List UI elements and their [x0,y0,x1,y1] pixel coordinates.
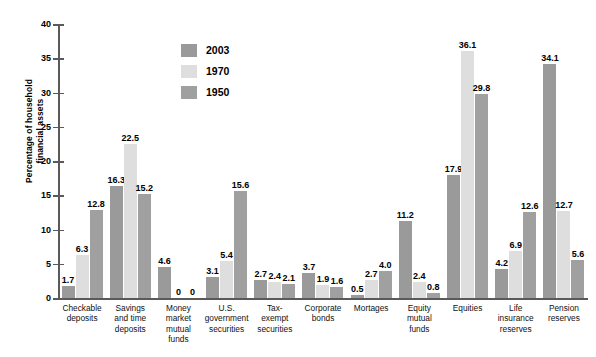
legend-swatch [181,86,197,99]
bar-1950[interactable]: 0.8 [427,293,440,298]
bar-2003[interactable]: 4.6 [158,267,171,299]
bar-1970[interactable]: 6.9 [509,251,522,298]
bar-fill [110,186,123,298]
bar-value-label: 34.1 [541,53,559,63]
bar-2003[interactable]: 17.9 [447,175,460,298]
bar-1970[interactable]: 0 [172,298,185,299]
bar-fill [351,295,364,298]
bar-group: 34.112.75.6 [540,24,588,298]
bar-group: 4.26.912.6 [492,24,540,298]
bar-group: 3.71.91.6 [299,24,347,298]
bar-value-label: 2.4 [269,271,282,281]
bar-fill [206,277,219,298]
legend-swatch [181,44,197,57]
bar-value-label: 22.5 [121,133,139,143]
legend-label: 2003 [206,44,229,56]
bar-value-label: 1.7 [62,275,75,285]
bar-value-label: 15.6 [232,180,250,190]
bar-fill [282,284,295,298]
bar-1950[interactable]: 12.8 [90,210,103,298]
y-tick-label: 20 [41,156,51,166]
bar-1970[interactable]: 12.7 [557,211,570,298]
bar-value-label: 3.1 [206,266,219,276]
bar-1950[interactable]: 5.6 [571,260,584,298]
bar-value-label: 6.3 [76,244,89,254]
bar-value-label: 6.9 [509,240,522,250]
bar-fill [523,212,536,298]
bar-group: 0.52.74.0 [347,24,395,298]
bar-group: 1.76.312.8 [58,24,106,298]
bar-fill [543,64,556,298]
bar-2003[interactable]: 2.7 [254,280,267,298]
bar-2003[interactable]: 16.3 [110,186,123,298]
bar-fill [495,269,508,298]
bar-value-label: 12.7 [555,200,573,210]
y-tick-label: 35 [41,53,51,63]
bar-1950[interactable]: 4.0 [379,271,392,298]
bar-1950[interactable]: 1.6 [330,287,343,298]
bar-fill [379,271,392,298]
bar-2003[interactable]: 1.7 [62,286,75,298]
bar-value-label: 4.0 [379,260,392,270]
bar-value-label: 0.5 [351,284,364,294]
bar-1970[interactable]: 2.4 [413,282,426,298]
y-tick-label: 5 [46,259,51,269]
bar-fill [268,282,281,298]
bar-value-label: 3.7 [303,262,316,272]
bar-fill [172,298,185,299]
bar-fill [186,298,199,299]
bar-2003[interactable]: 34.1 [543,64,556,298]
y-tick-label: 40 [41,19,51,29]
bar-value-label: 12.8 [87,199,105,209]
bar-fill [447,175,460,298]
y-tick-mark [53,298,64,300]
legend-label: 1970 [206,65,229,77]
legend-item[interactable]: 1970 [181,62,229,80]
bar-1970[interactable]: 2.4 [268,282,281,298]
bar-1950[interactable]: 29.8 [475,94,488,298]
bar-1950[interactable]: 15.2 [138,194,151,298]
bar-2003[interactable]: 3.7 [302,273,315,298]
y-axis-title-line-1: Percentage of household [24,36,35,226]
bar-1970[interactable]: 5.4 [220,261,233,298]
bar-value-label: 0.8 [427,282,440,292]
y-tick-label: 25 [41,122,51,132]
legend-item[interactable]: 1950 [181,83,229,101]
bar-fill [220,261,233,298]
bar-group: 11.22.40.8 [395,24,443,298]
bar-fill [234,191,247,298]
bar-value-label: 12.6 [521,201,539,211]
bar-1950[interactable]: 2.1 [282,284,295,298]
x-axis-line [58,298,588,300]
bar-1970[interactable]: 6.3 [76,255,89,298]
bar-fill [138,194,151,298]
bar-value-label: 2.1 [283,273,296,283]
bar-fill [365,280,378,298]
bar-value-label: 0 [176,287,181,297]
bar-value-label: 4.2 [495,258,508,268]
bar-fill [571,260,584,298]
bar-group: 17.936.129.8 [443,24,491,298]
bar-2003[interactable]: 3.1 [206,277,219,298]
bar-value-label: 2.4 [413,271,426,281]
bar-2003[interactable]: 4.2 [495,269,508,298]
bar-1970[interactable]: 2.7 [365,280,378,298]
bar-group: 16.322.515.2 [106,24,154,298]
bar-1970[interactable]: 1.9 [316,285,329,298]
bar-1970[interactable]: 22.5 [124,144,137,298]
bar-1950[interactable]: 15.6 [234,191,247,298]
bar-fill [76,255,89,298]
bar-2003[interactable]: 11.2 [399,221,412,298]
legend-swatch [181,65,197,78]
bar-value-label: 0 [190,287,195,297]
bar-value-label: 5.4 [220,250,233,260]
x-axis-label: Pension reserves [534,303,594,324]
bar-value-label: 4.6 [158,256,171,266]
bar-1950[interactable]: 0 [186,298,199,299]
bar-1950[interactable]: 12.6 [523,212,536,298]
bar-chart: Percentage of household financial assets… [0,0,596,357]
bar-value-label: 16.3 [107,175,125,185]
bar-2003[interactable]: 0.5 [351,295,364,298]
legend-item[interactable]: 2003 [181,41,229,59]
bar-fill [316,285,329,298]
